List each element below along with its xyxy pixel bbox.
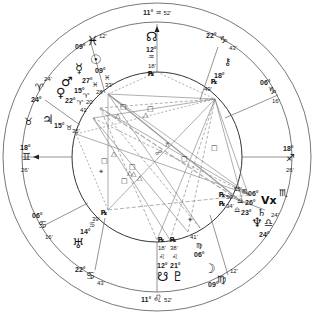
south-node-minutes: 18' — [158, 245, 166, 251]
moon-icon: ☽ — [204, 262, 216, 275]
sun-minutes: 33' — [105, 82, 113, 88]
cusp-3-minutes: 43' — [97, 280, 105, 286]
asc-degree: 18° — [20, 144, 31, 151]
pisces-icon: ♓ — [87, 34, 99, 47]
uranus-degree: 14° — [80, 228, 91, 235]
cusp-8-minutes: 24' — [44, 76, 52, 82]
asc-arrow — [33, 155, 39, 160]
svg-text:⚹: ⚹ — [99, 167, 104, 175]
venus-degree: 22° — [65, 97, 76, 104]
svg-text:□: □ — [121, 177, 128, 185]
sun-sign: ♓ — [104, 75, 110, 82]
aries-icon: ♈ — [35, 83, 44, 93]
mc-label: 11° ♒ 52' — [143, 9, 171, 17]
north-node-minutes: 18' — [148, 63, 156, 69]
north-node-degree: 12° — [146, 46, 157, 53]
svg-text:□: □ — [181, 155, 188, 163]
cusp-3-degree: 22° — [75, 266, 86, 273]
pluto-minutes: 38' — [170, 245, 178, 251]
virgo-icon: ♍ — [217, 275, 226, 285]
jupiter-degree: 15° — [54, 122, 65, 129]
south-node-sign: ♌ — [159, 254, 165, 261]
neptune-sign: ♎ — [234, 207, 240, 214]
scorpio-icon: ♏ — [279, 188, 288, 198]
cusp-12-minutes: 16' — [272, 98, 280, 104]
neptune-minutes: 34' — [226, 203, 234, 209]
uranus-icon: ♅ — [72, 237, 84, 250]
cusp-11-minutes: 43' — [229, 45, 237, 51]
gemini-icon: ♊ — [22, 152, 31, 162]
svg-text:△: △ — [115, 112, 121, 120]
chiron-retro-icon: ℞ — [211, 79, 217, 86]
saturn-minutes: 50' — [226, 194, 234, 200]
ic-label: 11° ♌ 52' — [141, 294, 172, 304]
jupiter-minutes: 35' — [72, 128, 80, 134]
moon-minutes: 41' — [190, 234, 198, 240]
cusp-8-degree: 24° — [31, 96, 42, 103]
cusp-11-label: 22° — [206, 32, 217, 39]
venus-minutes: 41' — [80, 107, 88, 113]
neptune-retro-icon: ℞ — [219, 201, 225, 208]
cusp-9-minutes: 12' — [99, 33, 107, 39]
house-cusps — [22, 24, 292, 292]
north-node-sign: ♒ — [148, 54, 154, 61]
neptune-icon: ♆ — [251, 216, 263, 229]
cancer-icon-2: ♋ — [38, 220, 47, 230]
asc-minutes: 26' — [21, 167, 29, 173]
south-node-retro-icon: ℞ — [158, 237, 164, 244]
vertex-icon: Vx — [261, 195, 277, 206]
cusp-5-minutes: 12' — [230, 268, 238, 274]
cancer-icon-3: ♋ — [86, 271, 95, 281]
saturn-sign: ♎ — [237, 198, 243, 205]
dsc-minutes: 26' — [286, 167, 294, 173]
pluto-sign: ♌ — [172, 254, 178, 261]
pluto-degree: 21° — [170, 262, 181, 269]
uranus-retro-icon: ℞ — [101, 210, 107, 217]
svg-text:□: □ — [211, 144, 218, 152]
sagittarius-icon: ♐ — [286, 153, 295, 163]
libra-icon: ♎ — [264, 218, 273, 228]
saturn-degree: 26° — [245, 199, 256, 206]
north-node-retro-icon: ℞ — [148, 71, 154, 78]
svg-text:□: □ — [101, 157, 108, 165]
moon-sign: ♍ — [196, 243, 202, 250]
capricorn-icon-11: ♑ — [219, 35, 228, 45]
venus-sign: ♈ — [77, 100, 83, 107]
pluto-icon: ♇ — [172, 270, 184, 283]
cusp-2-minutes: 16' — [45, 234, 53, 240]
chiron-icon: ⚷ — [224, 57, 231, 67]
mercury-minutes: 28' — [96, 89, 104, 95]
cusp-2-degree: 06° — [32, 212, 43, 219]
sun-icon: ☉ — [90, 53, 102, 66]
pluto-retro-icon: ℞ — [170, 237, 176, 244]
chiron-minutes: 49' — [204, 86, 212, 92]
saturn-retro-icon: ℞ — [219, 192, 225, 199]
north-node-icon: ☊ — [146, 30, 158, 43]
neptune-degree: 23° — [241, 209, 252, 216]
mercury-sign: ♓ — [92, 82, 98, 89]
jupiter-icon: ♃ — [42, 113, 54, 126]
svg-text:□: □ — [120, 103, 127, 111]
svg-text:△: △ — [143, 111, 149, 119]
cusp-9-degree: 09° — [75, 43, 86, 50]
south-node-icon: ☋ — [157, 270, 169, 283]
dsc-degree: 18° — [283, 145, 294, 152]
aquarius-icon: ♒ — [155, 9, 161, 17]
mars-minutes: 20' — [86, 99, 94, 105]
moon-degree: 06° — [194, 251, 205, 258]
leo-icon: ♌ — [153, 293, 162, 304]
mercury-degree: 27° — [82, 77, 93, 84]
taurus-icon: ♉ — [24, 117, 33, 127]
cusp-6-degree: 24° — [259, 231, 270, 238]
svg-text:⚻: ⚻ — [165, 141, 170, 149]
vertex-degree: 06° — [248, 190, 259, 197]
svg-text:△: △ — [111, 150, 117, 158]
svg-text:☍: ☍ — [155, 149, 162, 157]
capricorn-icon-12: ♑ — [268, 86, 277, 96]
south-node-degree: 12° — [157, 262, 168, 269]
mercury-icon: ☿ — [75, 62, 83, 75]
vertex-minutes: 55' — [234, 186, 242, 192]
sun-degree: 09° — [95, 67, 106, 74]
svg-text:△: △ — [137, 174, 143, 182]
